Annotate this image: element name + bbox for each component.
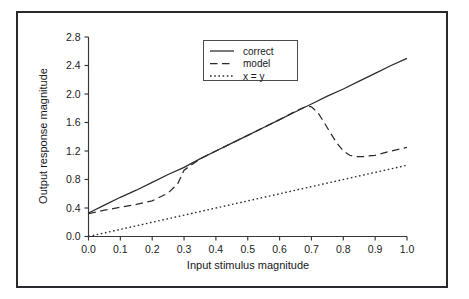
y-axis-title: Output response magnitude (37, 68, 49, 204)
figure: 0.00.40.81.21.62.02.42.8 0.00.10.20.30.4… (0, 0, 469, 299)
y-tick-label: 0.4 (66, 202, 81, 214)
y-tick-label: 0.0 (66, 230, 81, 242)
y-tick-label: 2.8 (66, 31, 81, 43)
legend: correctmodelx = y (204, 41, 298, 82)
data-series (89, 58, 408, 236)
x-tick-label: 0.3 (177, 243, 192, 255)
y-axis-tick-labels: 0.00.40.81.21.62.02.42.8 (66, 31, 81, 243)
x-tick-label: 0.2 (145, 243, 160, 255)
x-tick-label: 0.7 (304, 243, 319, 255)
chart-canvas: 0.00.40.81.21.62.02.42.8 0.00.10.20.30.4… (0, 0, 469, 299)
x-axis-tick-labels: 0.00.10.20.30.40.50.60.70.80.91.0 (81, 243, 414, 255)
x-tick-label: 0.8 (336, 243, 351, 255)
y-tick-label: 2.0 (66, 88, 81, 100)
series-line-model (89, 106, 408, 214)
x-tick-label: 0.1 (113, 243, 128, 255)
y-tick-label: 0.8 (66, 173, 81, 185)
y-axis-ticks (85, 37, 89, 237)
legend-label: x = y (243, 71, 264, 82)
y-tick-label: 1.6 (66, 116, 81, 128)
legend-label: correct (243, 46, 274, 57)
y-tick-label: 2.4 (66, 59, 81, 71)
legend-label: model (243, 58, 270, 69)
y-tick-label: 1.2 (66, 145, 81, 157)
x-tick-label: 0.4 (209, 243, 224, 255)
series-line-x-equals-y (89, 165, 408, 236)
x-tick-label: 0.6 (272, 243, 287, 255)
x-tick-label: 1.0 (400, 243, 415, 255)
x-tick-label: 0.5 (240, 243, 255, 255)
x-tick-label: 0.0 (81, 243, 96, 255)
x-tick-label: 0.9 (368, 243, 383, 255)
x-axis-ticks (89, 237, 408, 241)
x-axis-title: Input stimulus magnitude (187, 259, 309, 271)
